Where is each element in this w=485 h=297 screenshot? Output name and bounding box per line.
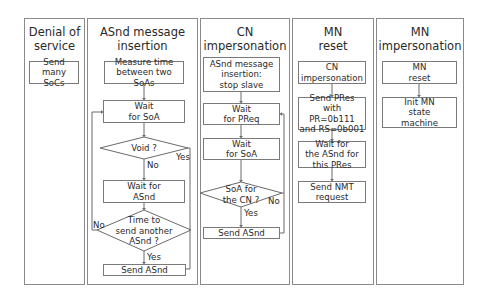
step-text: Measure time [105,57,183,68]
step-text: Init MN [401,97,438,108]
step-wait-for-preq: Waitfor PReq [203,103,280,125]
step-text: Wait [226,139,257,150]
step-send-asnd: Send ASnd [103,264,186,276]
step-text: Wait for [305,139,359,150]
step-init-mn-state-machine: Init MNstatemachine [382,97,457,128]
step-text: impersonation [301,73,363,84]
step-text: Send PRes [299,93,365,104]
title-line: CN [201,25,289,39]
step-text: ASnd [127,192,161,203]
step-text: MN [409,62,431,73]
step-text: machine [401,118,438,129]
column-title: Denial of service [25,25,84,53]
column-title: CN impersonation [201,25,289,53]
step-text: insertion: [210,69,274,80]
title-line: impersonation [201,39,289,53]
step-text: Send NMT [310,182,353,193]
step-asnd-insertion-stop-slave: ASnd messageinsertion:stop slave [203,57,280,92]
title-line: ASnd message [88,25,197,39]
step-send-nmt-request: Send NMTrequest [298,181,366,203]
decision-text: SoA for [211,184,271,195]
step-send-asnd: Send ASnd [203,227,280,239]
title-line: service [25,39,84,53]
column-title: MN reset [293,25,373,53]
step-text: Send many [30,57,78,78]
step-text: and RS=0b001 [299,124,365,135]
step-text: Send ASnd [121,265,168,276]
step-text: Wait [128,101,159,112]
step-cn-impersonation: CNimpersonation [298,61,366,84]
branch-label-no: No [147,160,159,170]
step-mn-reset: MNreset [382,61,457,84]
step-text: this PRes [305,160,359,171]
column-title: MN impersonation [377,25,463,53]
column-title: ASnd message insertion [88,25,197,53]
step-text: the ASnd for [305,149,359,160]
decision-text: the CN ? [211,195,271,206]
column-mn-impersonation: MN impersonation [376,18,464,285]
step-send-pres: Send PReswith PR=0b111and RS=0b001 [298,97,366,130]
branch-label-yes: Yes [176,152,190,162]
step-wait-for-asnd-pres: Wait forthe ASnd forthis PRes [298,141,366,168]
step-text: with PR=0b111 [299,103,365,124]
branch-label-no: No [268,196,280,206]
step-wait-for-soa: Waitfor SoA [203,138,280,160]
step-text: for PReq [223,114,259,125]
step-text: SoCs [30,78,78,89]
step-text: request [310,192,353,203]
branch-label-yes: Yes [147,252,161,262]
step-text: state [401,107,438,118]
decision-time-to-send: Time to send another ASnd ? [104,215,184,247]
step-wait-for-asnd: Wait forASnd [103,180,185,203]
step-send-many-socs: Send manySoCs [29,61,79,84]
step-text: reset [409,73,431,84]
title-line: Denial of [25,25,84,39]
decision-text: Time to [104,215,184,226]
step-text: Wait [223,104,259,115]
title-line: insertion [88,39,197,53]
step-text: Wait for [127,181,161,192]
title-line: MN [293,25,373,39]
step-text: CN [301,62,363,73]
title-line: reset [293,39,373,53]
title-line: impersonation [377,39,463,53]
decision-void: Void ? [114,143,174,154]
step-wait-for-soa: Waitfor SoA [103,100,185,123]
decision-text: send another [104,226,184,237]
title-line: MN [377,25,463,39]
step-text: stop slave [210,80,274,91]
step-text: between two SoAs [105,67,183,88]
step-text: ASnd message [210,59,274,70]
decision-text: ASnd ? [104,236,184,247]
branch-label-no: No [93,220,105,230]
step-text: for SoA [128,112,159,123]
step-measure-time: Measure timebetween two SoAs [104,61,184,84]
branch-label-yes: Yes [244,208,258,218]
step-text: for SoA [226,149,257,160]
step-text: Send ASnd [218,228,265,239]
decision-soa-for-cn: SoA for the CN ? [211,184,271,205]
